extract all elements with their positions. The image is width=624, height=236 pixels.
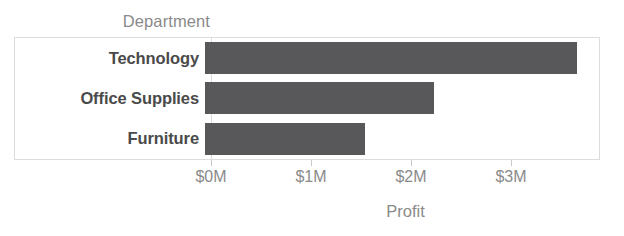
category-label-technology: Technology <box>15 49 205 68</box>
bar-furniture[interactable] <box>205 123 365 155</box>
bar-rows: Technology Office Supplies Furniture <box>15 38 599 159</box>
x-tick <box>511 160 512 166</box>
x-tick-label: $0M <box>195 168 226 186</box>
y-axis-title: Department <box>14 8 210 34</box>
x-tick <box>311 160 312 166</box>
bar-row[interactable]: Technology <box>15 42 599 74</box>
bar-track <box>205 42 599 74</box>
bar-track <box>205 123 599 155</box>
bar-office-supplies[interactable] <box>205 82 434 114</box>
plot-area: Technology Office Supplies Furniture <box>14 37 600 160</box>
x-tick-label: $2M <box>395 168 426 186</box>
x-tick <box>411 160 412 166</box>
x-axis-title: Profit <box>211 202 600 221</box>
bar-row[interactable]: Office Supplies <box>15 82 599 114</box>
x-tick-label: $1M <box>295 168 326 186</box>
category-label-office-supplies: Office Supplies <box>15 89 205 108</box>
category-label-furniture: Furniture <box>15 129 205 148</box>
x-tick-label: $3M <box>495 168 526 186</box>
x-axis: $0M$1M$2M$3M <box>211 160 600 161</box>
x-tick <box>211 160 212 166</box>
bar-track <box>205 82 599 114</box>
bar-chart: Department Technology Office Supplies Fu… <box>0 0 624 236</box>
bar-technology[interactable] <box>205 42 577 74</box>
bar-row[interactable]: Furniture <box>15 123 599 155</box>
